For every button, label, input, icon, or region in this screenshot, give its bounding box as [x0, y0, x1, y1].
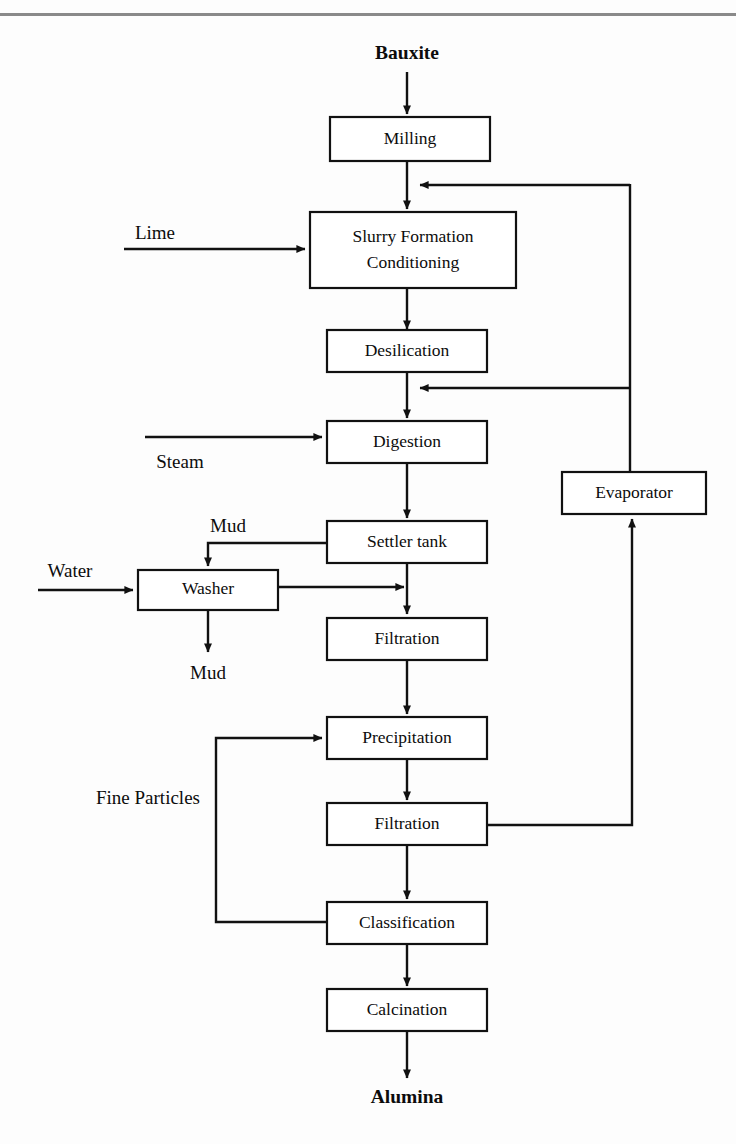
- node-slurry-formation-conditioning[interactable]: [310, 212, 516, 288]
- node-label-digestion: Digestion: [373, 431, 441, 451]
- stream-label-mud-top: Mud: [210, 515, 246, 536]
- node-label-settler-tank: Settler tank: [367, 531, 447, 551]
- edge-classification-to-precipitation-fines: [216, 738, 327, 922]
- output-label-mud: Mud: [190, 662, 226, 683]
- node-label-washer: Washer: [182, 578, 234, 598]
- stream-label-fine-particles: Fine Particles: [96, 787, 200, 808]
- node-label-calcination: Calcination: [367, 999, 448, 1019]
- node-label-milling: Milling: [384, 128, 437, 148]
- node-label-slurry-line1: Slurry Formation: [352, 226, 473, 246]
- input-label-lime: Lime: [135, 222, 175, 243]
- input-label-steam: Steam: [156, 451, 204, 472]
- edge-filtration2-to-evaporator: [487, 519, 632, 825]
- node-label-evaporator: Evaporator: [595, 482, 673, 502]
- node-label-filtration-1: Filtration: [374, 628, 439, 648]
- edge-settler-to-washer-mud: [208, 543, 327, 566]
- input-label-bauxite: Bauxite: [375, 42, 439, 63]
- output-label-alumina: Alumina: [371, 1086, 444, 1107]
- input-label-water: Water: [48, 560, 94, 581]
- node-label-precipitation: Precipitation: [362, 727, 452, 747]
- figure-root: Bauxite Milling Slurry Formation Conditi…: [0, 0, 736, 1144]
- node-label-slurry-line2: Conditioning: [367, 252, 460, 272]
- node-label-classification: Classification: [359, 912, 455, 932]
- node-label-filtration-2: Filtration: [374, 813, 439, 833]
- node-label-desilication: Desilication: [365, 340, 450, 360]
- flowchart-canvas: Bauxite Milling Slurry Formation Conditi…: [0, 0, 736, 1144]
